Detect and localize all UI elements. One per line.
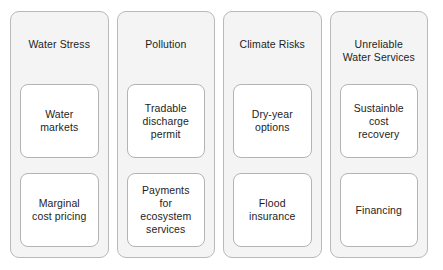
category-panel-water-stress[interactable]: Water Stress Water markets Marginal cost… <box>10 11 109 258</box>
category-panel-pollution[interactable]: Pollution Tradable discharge permit Paym… <box>117 11 216 258</box>
instrument-card[interactable]: Sustainble cost recovery <box>340 84 419 158</box>
instrument-card[interactable]: Tradable discharge permit <box>127 84 206 158</box>
instrument-card[interactable]: Flood insurance <box>233 173 312 247</box>
instrument-card-list: Water markets Marginal cost pricing <box>20 84 99 248</box>
category-header: Pollution <box>127 22 206 84</box>
category-panel-climate-risks[interactable]: Climate Risks Dry-year options Flood ins… <box>223 11 322 258</box>
instrument-card-list: Tradable discharge permit Payments for e… <box>127 84 206 248</box>
category-header: Unreliable Water Services <box>340 22 419 84</box>
diagram-canvas: Water Stress Water markets Marginal cost… <box>0 0 443 270</box>
instrument-card[interactable]: Payments for ecosystem services <box>127 173 206 247</box>
instrument-card[interactable]: Marginal cost pricing <box>20 173 99 247</box>
category-panel-unreliable-water-services[interactable]: Unreliable Water Services Sustainble cos… <box>330 11 429 258</box>
instrument-card-list: Dry-year options Flood insurance <box>233 84 312 248</box>
category-header: Water Stress <box>20 22 99 84</box>
category-header: Climate Risks <box>233 22 312 84</box>
instrument-card-list: Sustainble cost recovery Financing <box>340 84 419 248</box>
instrument-card[interactable]: Financing <box>340 173 419 247</box>
instrument-card[interactable]: Dry-year options <box>233 84 312 158</box>
instrument-card[interactable]: Water markets <box>20 84 99 158</box>
column-group: Water Stress Water markets Marginal cost… <box>0 0 443 270</box>
